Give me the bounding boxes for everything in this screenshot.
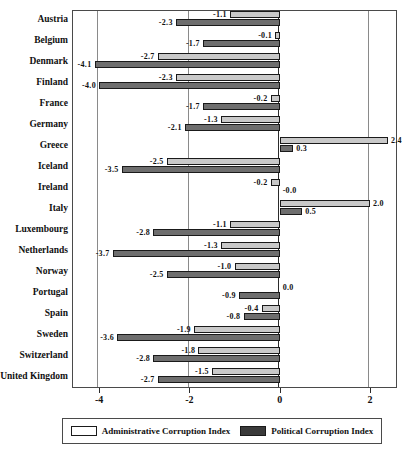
chart-row: United Kingdom-1.5-2.7 [72,367,397,388]
chart-row: Austria-1.1-2.3 [72,10,397,31]
value-label-admin-austria: -1.1 [213,10,227,19]
bar-political-switzerland [153,355,279,362]
value-label-admin-belgium: -0.1 [258,31,272,40]
bar-admin-belgium [275,32,280,39]
value-label-admin-denmark: -2.7 [141,52,155,61]
legend-swatch-political [240,426,266,436]
value-label-political-united-kingdom: -2.7 [141,375,155,384]
chart-row: Norway-1.0-2.5 [72,262,397,283]
chart-row: Greece2.40.3 [72,136,397,157]
bar-admin-denmark [158,53,280,60]
value-label-admin-france: -0.2 [254,94,268,103]
value-label-political-finland: -4.0 [82,81,96,90]
bar-political-netherlands [113,250,280,257]
bar-political-united-kingdom [158,376,280,383]
bars-layer: Austria-1.1-2.3Belgium-0.1-1.7Denmark-2.… [72,10,397,388]
value-label-admin-netherlands: -1.3 [204,241,218,250]
value-label-admin-sweden: -1.9 [177,325,191,334]
x-tick [280,388,281,393]
chart-row: Sweden-1.9-3.6 [72,325,397,346]
value-label-political-iceland: -3.5 [105,165,119,174]
chart-row: Luxembourg-1.1-2.8 [72,220,397,241]
chart-row: France-0.2-1.7 [72,94,397,115]
category-label-finland: Finland [0,77,68,87]
bar-admin-iceland [167,158,280,165]
chart-row: Denmark-2.7-4.1 [72,52,397,73]
bar-political-austria [176,19,280,26]
bar-admin-sweden [194,326,280,333]
x-tick [189,388,190,393]
category-label-greece: Greece [0,140,68,150]
value-label-admin-iceland: -2.5 [150,157,164,166]
chart-row: Italy2.00.5 [72,199,397,220]
value-label-political-austria: -2.3 [159,18,173,27]
bar-admin-switzerland [198,347,279,354]
category-label-spain: Spain [0,308,68,318]
category-label-austria: Austria [0,14,68,24]
bar-admin-spain [262,305,280,312]
legend-label-administrative: Administrative Corruption Index [102,426,231,436]
bar-admin-norway [235,263,280,270]
value-label-political-france: -1.7 [186,102,200,111]
category-label-france: France [0,98,68,108]
category-label-iceland: Iceland [0,161,68,171]
value-label-political-switzerland: -2.8 [136,354,150,363]
category-label-sweden: Sweden [0,329,68,339]
bar-admin-germany [221,116,280,123]
bar-admin-netherlands [221,242,280,249]
bar-political-norway [167,271,280,278]
value-label-political-greece: 0.3 [296,144,307,153]
category-label-switzerland: Switzerland [0,350,68,360]
category-label-germany: Germany [0,119,68,129]
category-label-belgium: Belgium [0,35,68,45]
bar-admin-ireland [271,179,280,186]
value-label-political-luxembourg: -2.8 [136,228,150,237]
bar-admin-greece [280,137,388,144]
chart-legend: Administrative Corruption Index Politica… [62,418,382,444]
value-label-admin-switzerland: -1.8 [181,346,195,355]
x-tick-label: -4 [95,394,103,405]
bar-political-greece [280,145,294,152]
category-label-luxembourg: Luxembourg [0,224,68,234]
chart-row: Iceland-2.5-3.5 [72,157,397,178]
legend-item-political: Political Corruption Index [240,426,373,436]
bar-admin-france [271,95,280,102]
value-label-political-germany: -2.1 [168,123,182,132]
x-axis: -4-202 [72,388,397,389]
bar-political-portugal [239,292,280,299]
value-label-political-sweden: -3.6 [100,333,114,342]
value-label-admin-greece: 2.4 [391,136,402,145]
category-label-united-kingdom: United Kingdom [0,371,68,381]
x-tick-label: 0 [277,394,282,405]
x-tick-label: 2 [367,394,372,405]
category-label-netherlands: Netherlands [0,245,68,255]
x-tick [99,388,100,393]
x-tick [370,388,371,393]
value-label-political-belgium: -1.7 [186,39,200,48]
bar-political-france [203,103,280,110]
value-label-admin-norway: -1.0 [218,262,232,271]
chart-row: Ireland-0.2-0.0 [72,178,397,199]
chart-row: Portugal0.0-0.9 [72,283,397,304]
value-label-admin-italy: 2.0 [373,199,384,208]
bar-admin-united-kingdom [212,368,280,375]
legend-label-political: Political Corruption Index [271,426,373,436]
bar-political-italy [280,208,303,215]
bar-political-finland [99,82,280,89]
value-label-admin-luxembourg: -1.1 [213,220,227,229]
value-label-admin-ireland: -0.2 [254,178,268,187]
chart-row: Switzerland-1.8-2.8 [72,346,397,367]
value-label-political-ireland: -0.0 [283,186,297,195]
value-label-admin-spain: -0.4 [245,304,259,313]
value-label-political-italy: 0.5 [305,207,316,216]
value-label-political-denmark: -4.1 [78,60,92,69]
value-label-political-netherlands: -3.7 [96,249,110,258]
bar-admin-italy [280,200,370,207]
category-label-ireland: Ireland [0,182,68,192]
chart-row: Germany-1.3-2.1 [72,115,397,136]
category-label-norway: Norway [0,266,68,276]
bar-political-belgium [203,40,280,47]
value-label-admin-germany: -1.3 [204,115,218,124]
chart-row: Finland-2.3-4.0 [72,73,397,94]
x-tick-label: -2 [185,394,193,405]
